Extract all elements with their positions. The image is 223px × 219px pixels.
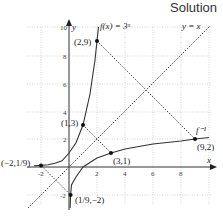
ytick-neg2: -2 xyxy=(60,192,66,200)
y-axis-label: y xyxy=(71,22,76,32)
point-label-neg2-1-9: (−2,1/9) xyxy=(1,158,30,168)
xtick-neg2: -2 xyxy=(38,170,44,178)
line-y-equals-x xyxy=(28,26,210,208)
point-label-3-1: (3,1) xyxy=(113,156,130,166)
ytick-8: 8 xyxy=(63,53,67,61)
xtick-2: 2 xyxy=(95,170,99,178)
xtick-8: 8 xyxy=(179,170,183,178)
xtick-6: 6 xyxy=(151,170,155,178)
xtick-4: 4 xyxy=(123,170,127,178)
ytick-2: 2 xyxy=(63,136,67,144)
label-f: f(x) = 3ˣ xyxy=(100,21,131,31)
x-axis-arrow-icon xyxy=(210,164,217,170)
label-y-equals-x: y = x xyxy=(181,21,201,31)
ytick-6: 6 xyxy=(63,81,67,89)
x-axis-label: x xyxy=(206,155,211,165)
ytick-10: 10 xyxy=(60,24,68,32)
curve-f xyxy=(34,27,99,166)
point-label-1-9-neg2: (1/9,−2) xyxy=(75,195,104,205)
ytick-4: 4 xyxy=(63,109,67,117)
function-graph: 10 8 6 4 2 -2 -2 2 4 6 8 y x f(x) = 3ˣ y… xyxy=(0,0,223,219)
point-label-9-2: (9,2) xyxy=(197,142,214,152)
label-f-inverse: f⁻¹ xyxy=(196,125,207,135)
point-label-2-9: (2,9) xyxy=(74,37,91,47)
point-label-1-3: (1,3) xyxy=(61,118,78,128)
